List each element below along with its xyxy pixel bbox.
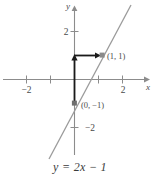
figure-caption-cutoff [0,181,160,188]
y-tick-label-pos2: 2 [64,27,69,37]
equation-caption: y = 2x − 1 [0,160,160,175]
data-point-0-neg1 [72,101,77,106]
x-tick-label-neg2: −2 [21,85,31,95]
function-line [49,5,131,159]
x-tick-label-pos2: 2 [121,85,126,95]
coordinate-plane-chart: −2 2 2 −2 x y (1, 1) (0, −1) [0,0,160,170]
point-label-0-neg1: (0, −1) [81,100,104,110]
x-axis-label: x [145,82,150,92]
y-axis-label: y [65,1,70,11]
point-label-1-1: (1, 1) [107,51,126,61]
figure-container: −2 2 2 −2 x y (1, 1) (0, −1) y = 2x − 1 [0,0,160,188]
data-point-1-1 [100,53,105,58]
y-axis-arrowhead [72,6,78,12]
y-tick-label-neg2: −2 [85,123,95,133]
